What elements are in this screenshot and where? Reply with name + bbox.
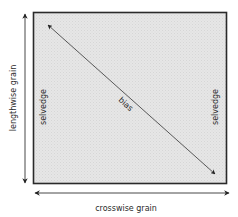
left-selvedge-label: selvedge: [39, 89, 48, 125]
grain-diagram: lengthwise grain crosswise grain selvedg…: [0, 0, 238, 217]
right-selvedge-label: selvedge: [211, 89, 220, 125]
lengthwise-grain-label: lengthwise grain: [9, 65, 18, 131]
crosswise-grain-label: crosswise grain: [95, 204, 157, 213]
